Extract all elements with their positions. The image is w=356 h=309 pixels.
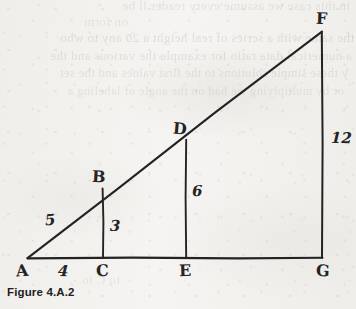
vertex-label-c: C	[96, 263, 109, 279]
segment-hypotenuse-af	[28, 32, 323, 259]
vertex-label-d: D	[172, 120, 187, 137]
figure-caption: Figure 4.A.2	[7, 286, 75, 298]
vertex-label-b: B	[92, 169, 106, 186]
measure-label-fg-12: 12	[331, 131, 352, 147]
segment-vertical-fg	[322, 32, 323, 258]
vertex-label-g: G	[316, 263, 330, 280]
segment-vertical-bc	[103, 188, 104, 257]
vertex-label-a: A	[15, 263, 29, 280]
measure-label-de-6: 6	[192, 184, 203, 199]
measure-label-bc-3: 3	[110, 219, 121, 234]
figure-page: in this case we assume every reader ll b…	[0, 0, 356, 309]
vertex-label-f: F	[316, 11, 328, 27]
segment-base-ag	[28, 258, 323, 259]
vertex-label-e: E	[179, 263, 192, 279]
measure-label-ac-4: 4	[58, 264, 69, 280]
measure-label-ab-5: 5	[44, 212, 56, 228]
segment-vertical-de	[186, 140, 187, 258]
